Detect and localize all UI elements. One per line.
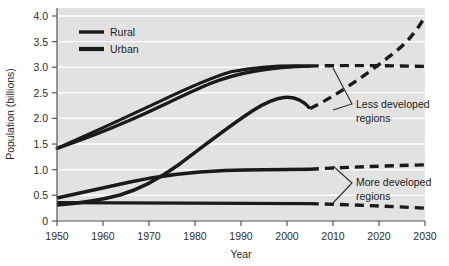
population-line-chart: 4.0 3.5 3.0 2.5 2.0 1.5 1.0 0.5 0 1950 1… xyxy=(0,0,449,266)
legend-label-urban: Urban xyxy=(110,43,139,55)
x-tick-label-2020: 2020 xyxy=(367,230,391,242)
x-tick-label-2000: 2000 xyxy=(275,230,299,242)
y-tick-label-2-5: 2.5 xyxy=(33,87,48,99)
x-tick-label-1990: 1990 xyxy=(229,230,253,242)
series-rural-more-developed xyxy=(57,203,310,204)
chart-svg: 4.0 3.5 3.0 2.5 2.0 1.5 1.0 0.5 0 1950 1… xyxy=(0,0,449,266)
x-tick-label-1950: 1950 xyxy=(45,230,69,242)
annotation-less-developed-line2: regions xyxy=(356,112,390,124)
annotation-less-developed-line1: Less developed xyxy=(356,98,430,110)
legend-label-rural: Rural xyxy=(110,26,135,38)
x-tick-label-1980: 1980 xyxy=(183,230,207,242)
x-axis-title: Year xyxy=(230,248,252,260)
x-tick-label-2030: 2030 xyxy=(413,230,437,242)
y-tick-labels: 4.0 3.5 3.0 2.5 2.0 1.5 1.0 0.5 0 xyxy=(33,10,48,227)
x-tick-labels: 1950 1960 1970 1980 1990 2000 2010 2020 … xyxy=(45,230,437,242)
y-tick-label-1-0: 1.0 xyxy=(33,164,48,176)
y-tick-label-2-0: 2.0 xyxy=(33,112,48,124)
y-tick-label-0-5: 0.5 xyxy=(33,189,48,201)
x-tick-label-2010: 2010 xyxy=(321,230,345,242)
y-tick-label-1-5: 1.5 xyxy=(33,138,48,150)
y-axis-title: Population (billions) xyxy=(4,68,16,160)
x-tick-label-1960: 1960 xyxy=(91,230,115,242)
y-tick-label-3-0: 3.0 xyxy=(33,61,48,73)
y-tick-label-3-5: 3.5 xyxy=(33,36,48,48)
y-tick-label-0: 0 xyxy=(42,215,48,227)
y-tick-label-4-0: 4.0 xyxy=(33,10,48,22)
annotation-more-developed-line1: More developed xyxy=(356,176,431,188)
annotation-more-developed-line2: regions xyxy=(356,190,390,202)
x-tick-label-1970: 1970 xyxy=(137,230,161,242)
